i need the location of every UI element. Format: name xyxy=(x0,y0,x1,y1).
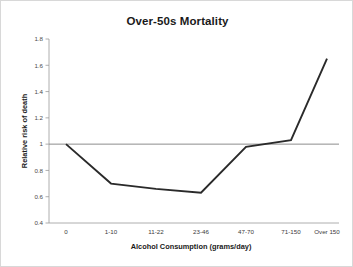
y-tick-label: 1.4 xyxy=(34,88,43,95)
x-tick-label: 71-150 xyxy=(281,228,301,235)
y-tick-label: 1.8 xyxy=(34,35,43,42)
x-tick-label: 0 xyxy=(64,228,68,235)
chart-frame: Over-50s Mortality 1.8 1.6 1.4 1.2 1 0.8… xyxy=(0,0,353,267)
data-series-line xyxy=(66,59,327,193)
y-axis-title: Relative risk of death xyxy=(20,93,29,168)
y-tick-label: 0.4 xyxy=(34,219,43,226)
y-axis-ticks xyxy=(46,39,50,223)
mortality-line-chart: 1.8 1.6 1.4 1.2 1 0.8 0.6 0.4 Relative r… xyxy=(1,1,353,267)
x-tick-label: Over 150 xyxy=(314,228,340,235)
x-tick-label: 47-70 xyxy=(238,228,254,235)
y-tick-label: 1 xyxy=(40,140,44,147)
y-tick-label: 0.6 xyxy=(34,193,43,200)
y-tick-label: 1.6 xyxy=(34,62,43,69)
x-tick-label: 1-10 xyxy=(105,228,118,235)
x-axis-title: Alcohol Consumption (grams/day) xyxy=(131,242,252,251)
y-tick-label: 1.2 xyxy=(34,114,43,121)
x-tick-label: 11-22 xyxy=(148,228,164,235)
y-tick-label: 0.8 xyxy=(34,167,43,174)
x-tick-label: 23-46 xyxy=(193,228,209,235)
